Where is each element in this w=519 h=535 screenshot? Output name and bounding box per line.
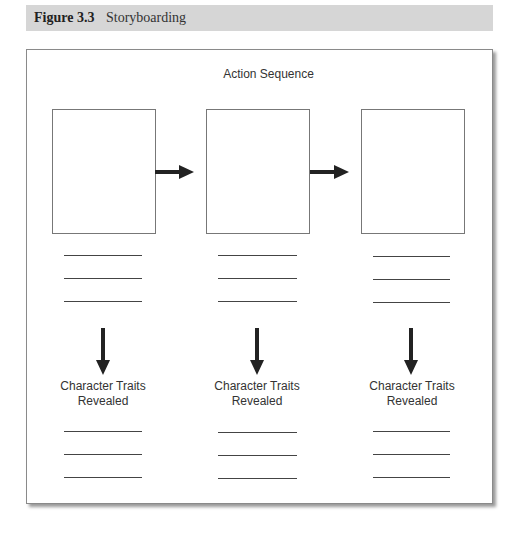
character-traits-label-3: Character Traits Revealed	[342, 379, 482, 409]
blank-line	[218, 255, 297, 256]
storyboard-panel-3	[361, 109, 465, 234]
storyboard-panel-1	[52, 109, 156, 234]
blank-line	[373, 256, 450, 257]
blank-line	[218, 301, 297, 302]
down-arrow-icon	[96, 328, 110, 376]
blank-line	[218, 455, 297, 456]
blank-line	[373, 454, 450, 455]
blank-line	[64, 278, 142, 279]
right-arrow-icon	[155, 165, 195, 179]
storyboard-panel-2	[206, 109, 310, 234]
blank-line	[373, 302, 450, 303]
character-traits-label-1: Character Traits Revealed	[33, 379, 173, 409]
figure-number: Figure 3.3	[34, 10, 94, 26]
blank-line	[373, 279, 450, 280]
blank-line	[64, 477, 142, 478]
down-arrow-icon	[404, 328, 418, 376]
right-arrow-icon	[310, 165, 350, 179]
figure-caption-bar: Figure 3.3 Storyboarding	[26, 5, 493, 31]
blank-line	[218, 478, 297, 479]
blank-line	[218, 278, 297, 279]
blank-line	[64, 431, 142, 432]
blank-line	[373, 477, 450, 478]
blank-line	[373, 431, 450, 432]
character-traits-label-2: Character Traits Revealed	[187, 379, 327, 409]
blank-line	[64, 255, 142, 256]
blank-line	[218, 432, 297, 433]
figure-title: Storyboarding	[106, 10, 186, 26]
down-arrow-icon	[250, 328, 264, 376]
blank-line	[64, 454, 142, 455]
action-sequence-heading: Action Sequence	[0, 67, 519, 81]
blank-line	[64, 301, 142, 302]
